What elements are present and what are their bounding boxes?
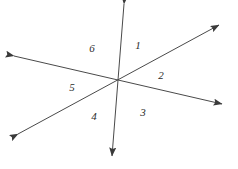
angle-label-1: 1 — [135, 40, 141, 51]
angle-label-4: 4 — [91, 111, 97, 122]
angle-label-6: 6 — [89, 43, 95, 54]
figure-canvas — [0, 0, 238, 169]
geometry-figure: 1 2 3 4 5 6 — [0, 0, 238, 169]
lines-group — [14, 4, 222, 156]
falling-diagonal-line — [14, 56, 222, 104]
angle-label-3: 3 — [140, 107, 146, 118]
rising-diagonal-line — [18, 25, 219, 134]
angle-label-5: 5 — [69, 82, 75, 93]
angle-label-2: 2 — [158, 70, 164, 81]
